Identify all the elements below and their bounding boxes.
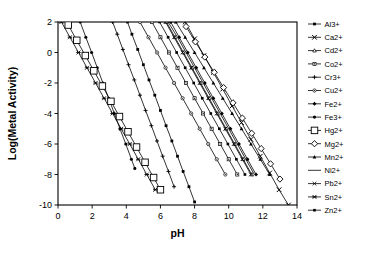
marker-open-square-large: [157, 186, 164, 193]
legend-item-hg2[interactable]: Hg2+: [308, 126, 343, 135]
marker-filled-square: [167, 36, 170, 39]
legend-item-fe3[interactable]: Fe3+: [308, 113, 342, 122]
marker-open-square-large: [91, 68, 98, 75]
marker-square-core: [314, 63, 315, 64]
x-tick-label: 8: [192, 211, 197, 221]
marker-square-core: [203, 113, 204, 114]
marker-open-square-large: [65, 22, 72, 29]
marker-square-core: [211, 128, 212, 129]
marker-filled-circle: [133, 167, 136, 170]
marker-open-square-large: [125, 129, 132, 136]
marker-filled-square: [244, 173, 247, 176]
y-tick-label: 0: [47, 48, 52, 58]
x-tick-label: 10: [224, 211, 234, 221]
marker-open-triangle: [313, 49, 317, 52]
legend-item-cd2[interactable]: Cd2+: [308, 46, 343, 55]
y-tick-label: -6: [44, 139, 52, 149]
marker-square-core: [194, 98, 195, 99]
legend-label: Cd2+: [325, 46, 344, 55]
marker-circle-core: [156, 52, 157, 53]
marker-square-core: [168, 52, 169, 53]
x-tick-label: 6: [158, 211, 163, 221]
marker-filled-square: [201, 97, 204, 100]
plot-area-border: [58, 22, 297, 205]
marker-filled-square: [131, 33, 134, 36]
marker-filled-square: [126, 21, 129, 24]
marker-filled-circle: [124, 142, 127, 145]
legend-item-sn2[interactable]: Sn2+: [308, 193, 343, 202]
legend-item-mn2[interactable]: Mn2+: [308, 153, 344, 162]
legend-item-ni2[interactable]: Ni2+: [308, 166, 341, 175]
y-tick-label: 2: [47, 17, 52, 27]
legend-item-fe2[interactable]: Fe2+: [308, 100, 342, 109]
legend-label: Co2+: [325, 60, 344, 69]
marker-square-core: [177, 67, 178, 68]
marker-filled-square: [158, 21, 161, 24]
marker-filled-square: [165, 124, 168, 127]
marker-circle-core: [225, 174, 226, 175]
marker-filled-square: [142, 63, 145, 66]
legend-item-cr3[interactable]: Cr3+: [308, 73, 342, 82]
y-tick-label: -8: [44, 170, 52, 180]
marker-square-core: [228, 159, 229, 160]
y-axis-title: Log(Metal Activity): [6, 67, 18, 161]
marker-filled-square: [136, 48, 139, 51]
marker-filled-circle: [79, 20, 82, 23]
marker-circle-core: [199, 128, 200, 129]
legend-label: Cu2+: [325, 86, 344, 95]
marker-square-core: [220, 143, 221, 144]
marker-circle-core: [148, 37, 149, 38]
x-tick-label: 12: [258, 211, 268, 221]
marker-filled-circle: [90, 51, 93, 54]
marker-circle-core: [191, 113, 192, 114]
marker-circle-core: [174, 82, 175, 83]
marker-square-core: [237, 174, 238, 175]
legend-label: Ni2+: [325, 166, 341, 175]
legend-item-pb2[interactable]: Pb2+: [308, 179, 343, 188]
x-axis-title: pH: [171, 227, 185, 239]
legend-item-ca2[interactable]: Ca2+: [308, 33, 343, 42]
metal-solubility-chart: 02468101214pH20-2-4-6-8-10Log(Metal Acti…: [0, 0, 367, 258]
legend-label: Cr3+: [325, 73, 342, 82]
marker-filled-circle: [130, 158, 133, 161]
marker-square-core: [185, 82, 186, 83]
legend-label: Al3+: [325, 20, 341, 29]
marker-filled-square: [192, 82, 195, 85]
legend-item-mg2[interactable]: Mg2+: [308, 140, 344, 149]
legend-label: Hg2+: [325, 126, 344, 135]
marker-filled-square: [313, 23, 316, 26]
marker-filled-square: [313, 209, 316, 212]
marker-circle-core: [208, 143, 209, 144]
marker-filled-square: [170, 140, 173, 143]
chart-container: 02468101214pH20-2-4-6-8-10Log(Metal Acti…: [0, 0, 367, 258]
legend-label: Mn2+: [325, 153, 345, 162]
marker-filled-square: [188, 185, 191, 188]
legend-label: Pb2+: [325, 179, 343, 188]
legend: Al3+Ca2+Cd2+Co2+Cr3+Cu2+Fe2+Fe3+Hg2+Mg2+…: [308, 20, 344, 215]
marker-filled-diamond: [313, 102, 317, 106]
legend-label: Ca2+: [325, 33, 344, 42]
marker-circle-core: [165, 67, 166, 68]
legend-item-co2[interactable]: Co2+: [308, 60, 343, 69]
x-tick-label: 2: [90, 211, 95, 221]
marker-open-square-large: [108, 98, 115, 105]
marker-open-square-large: [133, 144, 140, 151]
marker-open-square-large: [99, 83, 106, 90]
marker-filled-square: [176, 155, 179, 158]
marker-filled-square: [218, 127, 221, 130]
marker-open-square-large: [311, 127, 318, 134]
marker-filled-square: [153, 94, 156, 97]
marker-filled-square: [227, 143, 230, 146]
marker-filled-square: [148, 79, 151, 82]
legend-label: Mg2+: [325, 140, 345, 149]
marker-filled-square: [184, 66, 187, 69]
x-tick-label: 0: [55, 211, 60, 221]
x-tick-label: 14: [292, 211, 302, 221]
marker-filled-circle: [313, 116, 316, 119]
legend-item-zn2[interactable]: Zn2+: [308, 206, 342, 215]
marker-filled-square: [182, 170, 185, 173]
legend-item-al3[interactable]: Al3+: [308, 20, 340, 29]
y-tick-label: -10: [39, 200, 52, 210]
marker-filled-square: [159, 109, 162, 112]
legend-item-cu2[interactable]: Cu2+: [308, 86, 343, 95]
